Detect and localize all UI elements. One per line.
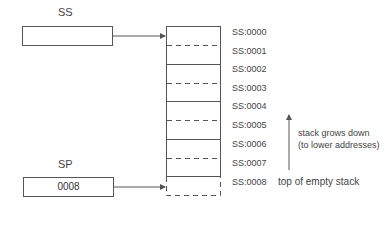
address-label: SS:0000	[232, 27, 267, 37]
top-of-stack-label: top of empty stack	[278, 176, 359, 188]
address-label: SS:0008	[232, 177, 267, 187]
address-label: SS:0001	[232, 46, 267, 56]
address-label: SS:0005	[232, 120, 267, 130]
growth-note-line1: stack grows down	[298, 127, 370, 139]
address-label: SS:0006	[232, 139, 267, 149]
address-label: SS:0002	[232, 64, 267, 74]
address-label: SS:0007	[232, 158, 267, 168]
address-label: SS:0003	[232, 83, 267, 93]
growth-note-line2: (to lower addresses)	[298, 139, 380, 151]
address-label: SS:0004	[232, 101, 267, 111]
empty-slot	[167, 177, 221, 196]
